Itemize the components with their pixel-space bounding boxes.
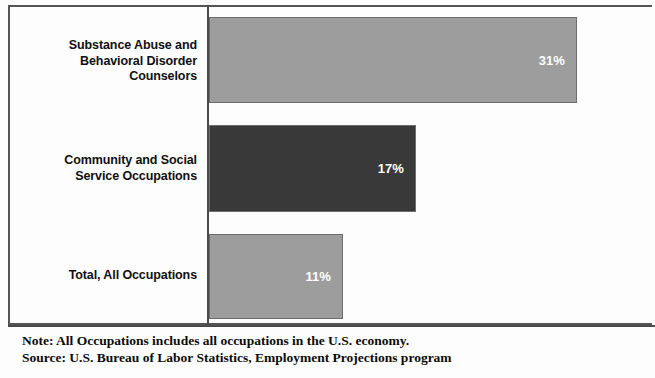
value-axis-baseline bbox=[8, 325, 655, 327]
bar-row: Substance Abuse and Behavioral Disorder … bbox=[8, 17, 655, 103]
category-label-line: Community and Social bbox=[64, 153, 197, 167]
figure-footnotes: Note: All Occupations includes all occup… bbox=[22, 332, 642, 366]
bar-category-label: Community and Social Service Occupations bbox=[17, 153, 197, 184]
plot-area: Substance Abuse and Behavioral Disorder … bbox=[8, 5, 655, 327]
bar-segment: 17% bbox=[209, 125, 416, 212]
category-label-line: Behavioral Disorder bbox=[80, 54, 197, 68]
category-label-line: Counselors bbox=[129, 69, 197, 83]
bar-value-label: 17% bbox=[378, 161, 415, 176]
bar-row: Community and Social Service Occupations… bbox=[8, 125, 655, 212]
category-label-line: Substance Abuse and bbox=[69, 38, 197, 52]
bar-value-label: 31% bbox=[539, 53, 576, 68]
bar-segment: 31% bbox=[209, 17, 577, 103]
bar-row: Total, All Occupations 11% bbox=[8, 234, 655, 319]
chart-figure: Substance Abuse and Behavioral Disorder … bbox=[0, 0, 655, 378]
figure-source: Source: U.S. Bureau of Labor Statistics,… bbox=[22, 349, 642, 366]
figure-note: Note: All Occupations includes all occup… bbox=[22, 332, 642, 349]
bar-category-label: Total, All Occupations bbox=[17, 268, 197, 284]
bar-segment: 11% bbox=[209, 234, 343, 319]
category-label-line: Total, All Occupations bbox=[69, 268, 197, 282]
bar-category-label: Substance Abuse and Behavioral Disorder … bbox=[17, 38, 197, 85]
category-label-line: Service Occupations bbox=[75, 169, 197, 183]
bar-value-label: 11% bbox=[305, 269, 342, 284]
